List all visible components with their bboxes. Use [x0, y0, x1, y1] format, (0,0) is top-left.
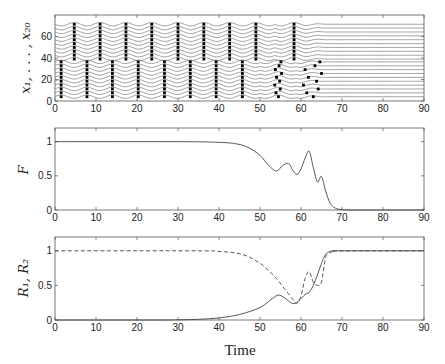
spike-dot [125, 46, 128, 49]
spike-dot [293, 46, 296, 49]
spike-dot [274, 68, 277, 71]
spike-dot [125, 42, 128, 45]
spike-dot [60, 80, 63, 83]
spike-dot [302, 84, 305, 87]
spike-dot [137, 60, 140, 63]
spike-dot [241, 91, 244, 94]
spike-dot [73, 27, 76, 30]
spike-dot [280, 60, 283, 63]
x-tick-label: 0 [52, 212, 58, 223]
x-tick-label: 40 [213, 322, 225, 333]
oscillator-trace [55, 95, 424, 98]
spike-dot [189, 84, 192, 87]
spike-dot [314, 64, 317, 67]
spike-dot [228, 42, 231, 45]
x-tick-label: 10 [90, 212, 102, 223]
spike-dot [293, 31, 296, 34]
spike-dot [189, 60, 192, 63]
spike-dot [60, 95, 63, 98]
ylabel-R: R₁, R₂ [16, 259, 31, 298]
spike-dot [275, 91, 278, 94]
spike-dot [293, 58, 296, 61]
spike-dot [99, 58, 102, 61]
spike-dot [202, 58, 205, 61]
y-tick-label: 0 [46, 96, 52, 107]
x-tick-label: 60 [295, 103, 307, 114]
spike-dot [86, 76, 89, 79]
spike-dot [177, 31, 180, 34]
y-tick-label: 0 [46, 315, 52, 326]
spike-dot [215, 76, 218, 79]
spike-dot [137, 84, 140, 87]
ylabel-oscillators: x₁, . . . , x₂₀ [18, 21, 33, 93]
spike-dot [163, 88, 166, 91]
spike-dot [163, 76, 166, 79]
y-tick-label: 1 [46, 136, 52, 147]
x-tick-label: 80 [377, 103, 389, 114]
y-tick-label: 0.5 [38, 280, 52, 291]
spike-dot [255, 58, 258, 61]
spike-dot [278, 80, 281, 83]
spike-dot [137, 91, 140, 94]
spike-dot [111, 88, 114, 91]
spike-dot [73, 34, 76, 37]
spike-dot [86, 91, 89, 94]
oscillator-trace [55, 68, 424, 71]
y-tick-label: 40 [41, 53, 53, 64]
spike-dot [125, 31, 128, 34]
x-tick-label: 10 [90, 103, 102, 114]
spike-dot [255, 42, 258, 45]
spike-dot [99, 34, 102, 37]
x-tick-label: 80 [377, 322, 389, 333]
y-tick-label: 1 [46, 245, 52, 256]
spike-dot [215, 80, 218, 83]
spike-dot [255, 46, 258, 49]
spike-dot [137, 68, 140, 71]
x-tick-label: 20 [131, 322, 143, 333]
spike-dot [318, 60, 321, 63]
figure: 01020304050607080900204060 0102030405060… [0, 0, 445, 364]
spike-dot [189, 88, 192, 91]
spike-dot [99, 50, 102, 53]
spike-dot [73, 50, 76, 53]
x-tick-label: 70 [336, 212, 348, 223]
oscillator-trace [55, 23, 424, 26]
x-tick-label: 60 [295, 322, 307, 333]
spike-dot [86, 64, 89, 67]
oscillator-trace [55, 34, 424, 37]
oscillator-trace [55, 91, 424, 94]
spike-dot [137, 95, 140, 98]
spike-dot [273, 84, 276, 87]
spike-dot [73, 42, 76, 45]
oscillator-trace [55, 80, 424, 83]
spike-dot [111, 64, 114, 67]
spike-dot [293, 50, 296, 53]
spike-dot [215, 60, 218, 63]
spike-dot [255, 23, 258, 26]
spike-dot [150, 27, 153, 30]
spike-dot [163, 91, 166, 94]
x-tick-label: 40 [213, 212, 225, 223]
spike-dot [86, 88, 89, 91]
spike-dot [255, 54, 258, 57]
spike-dot [241, 80, 244, 83]
spike-dot [189, 91, 192, 94]
spike-dot [86, 80, 89, 83]
spike-dot [293, 34, 296, 37]
x-tick-label: 0 [52, 103, 58, 114]
x-tick-label: 30 [172, 322, 184, 333]
spike-dot [60, 88, 63, 91]
x-tick-label: 90 [418, 103, 430, 114]
spike-dot [163, 84, 166, 87]
spike-dot [215, 91, 218, 94]
x-tick-label: 20 [131, 212, 143, 223]
spike-dot [241, 88, 244, 91]
x-tick-label: 10 [90, 322, 102, 333]
spike-dot [177, 46, 180, 49]
y-tick-label: 20 [41, 74, 53, 85]
spike-dot [305, 91, 308, 94]
oscillator-trace [55, 38, 424, 41]
spike-dot [277, 95, 280, 98]
oscillator-trace [55, 42, 424, 45]
spike-dot [125, 23, 128, 26]
